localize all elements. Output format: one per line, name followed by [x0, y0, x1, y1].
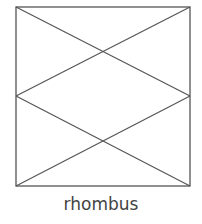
outer-square	[16, 7, 190, 186]
rhombus-diagram	[0, 0, 202, 190]
figure-caption: rhombus	[0, 194, 202, 214]
